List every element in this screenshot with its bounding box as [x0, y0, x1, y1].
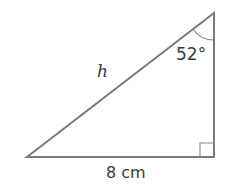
angle-arc-icon — [193, 29, 214, 40]
triangle-shape — [27, 13, 214, 157]
angle-label: 52° — [176, 46, 206, 63]
hypotenuse-label: h — [97, 63, 108, 80]
right-angle-marker-icon — [200, 143, 214, 157]
base-length-label: 8 cm — [106, 165, 146, 181]
triangle-diagram — [0, 0, 233, 188]
